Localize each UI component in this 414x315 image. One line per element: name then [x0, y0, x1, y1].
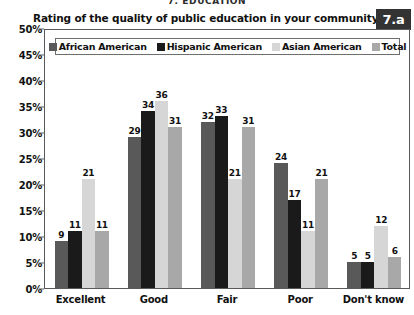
bar-value-label: 36 — [149, 90, 175, 100]
bar[interactable] — [388, 257, 402, 288]
bar[interactable] — [155, 101, 169, 288]
bar[interactable] — [242, 127, 256, 288]
bar[interactable] — [95, 231, 109, 288]
bar[interactable] — [215, 116, 229, 288]
bar[interactable] — [68, 231, 82, 288]
bar-value-label: 31 — [162, 116, 188, 126]
bar-value-label: 11 — [89, 220, 115, 230]
bar-value-label: 6 — [382, 246, 408, 256]
x-axis-tick-label: Don't know — [343, 294, 405, 305]
bar[interactable] — [201, 122, 215, 288]
bar[interactable] — [361, 262, 375, 288]
bar[interactable] — [288, 200, 302, 288]
y-axis-tick-label: 45% — [2, 50, 42, 61]
chart-figure: 7. EDUCATION Rating of the quality of pu… — [0, 0, 414, 315]
bar-value-label: 24 — [268, 152, 294, 162]
bar[interactable] — [128, 137, 142, 288]
bar[interactable] — [301, 231, 315, 288]
bar[interactable] — [315, 179, 329, 288]
bar-group: 24171121 — [274, 30, 328, 288]
bar-value-label: 31 — [235, 116, 261, 126]
y-axis-tick-label: 40% — [2, 76, 42, 87]
y-axis-tick-label: 20% — [2, 180, 42, 191]
bar[interactable] — [347, 262, 361, 288]
bar-groups: 911211129343631323321312417112155126 — [45, 30, 409, 288]
bar-group: 9112111 — [55, 30, 109, 288]
bar-value-label: 33 — [208, 105, 234, 115]
bar-group: 55126 — [347, 30, 401, 288]
bar[interactable] — [141, 111, 155, 288]
bar-value-label: 17 — [281, 189, 307, 199]
bar-value-label: 21 — [308, 168, 334, 178]
x-axis-tick-label: Excellent — [56, 294, 106, 305]
chart-title: Rating of the quality of public educatio… — [33, 12, 384, 24]
x-axis-tick-label: Fair — [217, 294, 238, 305]
y-axis-tick-label: 50% — [2, 24, 42, 35]
bar-group: 32332131 — [201, 30, 255, 288]
bar[interactable] — [82, 179, 96, 288]
y-axis-tick-label: 10% — [2, 232, 42, 243]
bar[interactable] — [55, 241, 69, 288]
figure-number-badge: 7.a — [376, 9, 411, 30]
y-axis-tick-label: 5% — [2, 258, 42, 269]
y-axis-tick-label: 0% — [2, 284, 42, 295]
bar-value-label: 12 — [368, 215, 394, 225]
y-axis-tick-label: 35% — [2, 102, 42, 113]
section-header: 7. EDUCATION — [0, 0, 414, 5]
bar-group: 29343631 — [128, 30, 182, 288]
y-axis-tick-label: 25% — [2, 154, 42, 165]
y-axis-tick-label: 15% — [2, 206, 42, 217]
x-axis-tick-label: Poor — [288, 294, 313, 305]
bar-value-label: 21 — [75, 168, 101, 178]
bar[interactable] — [274, 163, 288, 288]
plot-area: African AmericanHispanic AmericanAsian A… — [44, 29, 410, 289]
x-axis-tick-label: Good — [140, 294, 168, 305]
y-axis-tick-label: 30% — [2, 128, 42, 139]
bar[interactable] — [374, 226, 388, 288]
bar[interactable] — [228, 179, 242, 288]
bar[interactable] — [168, 127, 182, 288]
